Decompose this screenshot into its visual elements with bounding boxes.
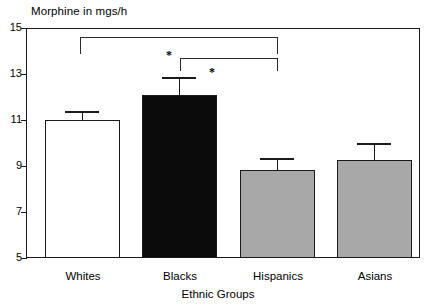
bar-blacks[interactable] (142, 95, 217, 258)
x-tick-label-blacks: Blacks (139, 270, 221, 282)
significance-bracket-top-blacks-hispanics (180, 58, 278, 59)
error-bar-cap-blacks (162, 77, 196, 79)
x-tick-label-hispanics: Hispanics (236, 270, 320, 282)
significance-bracket-arm-left-blacks (180, 58, 181, 71)
y-tick-mark-5 (21, 258, 27, 259)
bar-whites[interactable] (45, 120, 120, 258)
y-tick-label-7: 7 (2, 205, 22, 217)
y-tick-label-9: 9 (2, 159, 22, 171)
error-bar-cap-hispanics (260, 158, 294, 160)
y-tick-label-11: 11 (2, 113, 22, 125)
x-tick-label-asians: Asians (334, 270, 416, 282)
significance-bracket-arm-left-whites (80, 37, 81, 54)
significance-bracket-top-whites-hispanics (80, 37, 278, 38)
error-bar-cap-whites (65, 111, 99, 113)
error-bar-stem-hispanics (277, 158, 279, 171)
significance-bracket-arm-right-hispanics (277, 37, 278, 54)
error-bar-cap-asians (357, 143, 391, 145)
bar-chart-figure: Morphine in mgs/h 15 13 11 9 7 5 * * Whi… (0, 0, 436, 306)
bar-asians[interactable] (337, 160, 412, 258)
bar-hispanics[interactable] (240, 170, 315, 258)
x-tick-label-whites: Whites (42, 270, 124, 282)
significance-star-upper: * (166, 49, 172, 61)
x-axis-title: Ethnic Groups (0, 288, 436, 300)
y-tick-label-13: 13 (2, 67, 22, 79)
error-bar-stem-blacks (179, 77, 181, 96)
y-tick-label-5: 5 (2, 251, 22, 263)
y-tick-label-15: 15 (2, 21, 22, 33)
error-bar-stem-asians (374, 143, 376, 161)
y-axis-title: Morphine in mgs/h (31, 5, 127, 17)
significance-bracket-arm-right-hispanics-2 (277, 58, 278, 71)
significance-star-lower: * (209, 66, 215, 78)
